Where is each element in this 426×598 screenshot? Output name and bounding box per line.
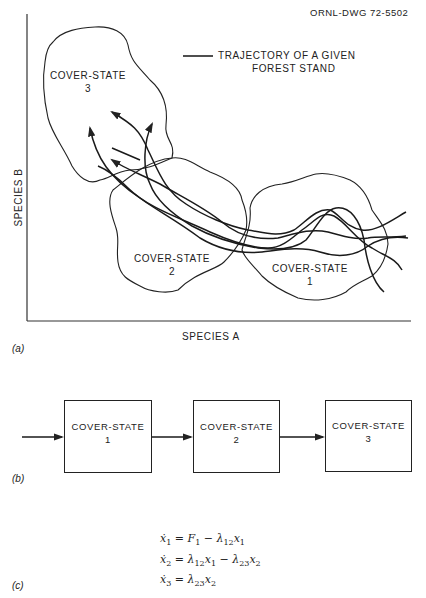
- box-cover-state-1: COVER-STATE 1: [64, 400, 152, 473]
- compartment-diagram-arrows: [0, 0, 426, 598]
- box-cover-state-2: COVER-STATE 2: [193, 400, 280, 473]
- box-cover-state-3: COVER-STATE 3: [325, 400, 412, 472]
- equation-3: ẋ3 = λ23 x2 ẋ3 = λ23x2: [160, 573, 216, 588]
- equation-1: ẋ1 = F1 − λ12 x1 ẋ1 = F1 − λ12x1: [160, 532, 245, 547]
- equation-2: ẋ2 = λ12 x1 − λ23 x2 ẋ2 = λ12x1 − λ23x2: [160, 553, 261, 568]
- panel-b-label: (b): [12, 473, 24, 484]
- panel-c-label: (c): [12, 580, 24, 591]
